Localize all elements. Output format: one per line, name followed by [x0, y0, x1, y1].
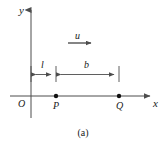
- y-axis-label: y: [19, 5, 24, 16]
- figure-caption: (a): [0, 128, 166, 138]
- point-marker-q: [117, 94, 121, 98]
- physics-diagram-figure: y x O P Q u l b (a): [0, 0, 166, 146]
- origin-label: O: [18, 99, 25, 109]
- dimension-label-l: l: [41, 60, 44, 70]
- dimension-label-b: b: [84, 60, 89, 70]
- diagram-canvas: [0, 0, 166, 146]
- point-marker-p: [54, 94, 58, 98]
- point-label-q: Q: [116, 101, 123, 111]
- x-axis-label: x: [153, 98, 158, 109]
- velocity-label-u: u: [75, 31, 80, 41]
- point-label-p: P: [53, 101, 59, 111]
